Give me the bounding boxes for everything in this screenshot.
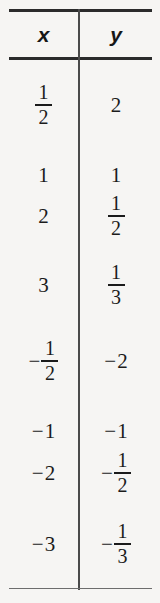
fraction: 13 [108,262,125,309]
cell-y: −1 [80,408,152,454]
cell-value-x: 1 [38,165,49,186]
cell-x: 3 [9,262,78,308]
cell-value-x: −1 [32,421,55,442]
fraction: 12 [114,450,131,497]
minus-sign: − [32,420,44,441]
fraction: 12 [35,82,52,129]
table-bottom-rule [9,588,152,589]
cell-x: −2 [9,450,78,496]
cell-value-x: 12 [35,82,52,129]
fraction-denominator: 2 [110,218,122,239]
math-table-figure: x y 12211212313−12−2−1−1−2−12−3−13 [0,0,160,603]
cell-y: 13 [80,262,152,308]
fraction: 13 [114,521,131,568]
minus-sign: − [32,462,44,483]
fraction-numerator: 1 [116,521,128,542]
fraction-numerator: 1 [116,450,128,471]
cell-y: 12 [80,193,152,239]
minus-sign: − [104,350,116,371]
table-row: 122 [0,82,160,128]
integer-value: 1 [45,421,56,442]
table-header-row: x y [0,12,160,57]
fraction-numerator: 1 [110,193,122,214]
table-body: 12211212313−12−2−1−1−2−12−3−13 [0,60,160,588]
cell-value-y: −1 [104,421,127,442]
fraction-denominator: 3 [116,546,128,567]
table-row: −1−1 [0,408,160,454]
cell-value-x: 3 [38,275,49,296]
cell-value-y: 13 [108,262,125,309]
fraction-denominator: 3 [110,287,122,308]
fraction: 12 [108,193,125,240]
cell-x: −1 [9,408,78,454]
table-row: −3−13 [0,521,160,567]
cell-y: −12 [80,450,152,496]
cell-value-x: −12 [29,338,59,385]
cell-x: 12 [9,82,78,128]
integer-value: 3 [38,275,49,296]
cell-value-y: 12 [108,193,125,240]
cell-value-x: 2 [38,206,49,227]
integer-value: 1 [111,165,122,186]
integer-value: 2 [38,206,49,227]
column-header-y: y [80,12,152,57]
fraction-numerator: 1 [110,262,122,283]
integer-value: 1 [38,165,49,186]
minus-sign: − [101,533,113,554]
cell-y: −13 [80,521,152,567]
integer-value: 2 [45,463,56,484]
cell-value-y: −13 [101,521,131,568]
cell-value-y: 1 [111,165,122,186]
cell-value-y: 2 [111,95,122,116]
cell-value-x: −2 [32,463,55,484]
fraction-denominator: 2 [44,363,56,384]
cell-value-y: −2 [104,351,127,372]
cell-y: −2 [80,338,152,384]
cell-y: 2 [80,82,152,128]
cell-value-y: −12 [101,450,131,497]
fraction-numerator: 1 [44,338,56,359]
fraction-denominator: 2 [116,475,128,496]
table-row: −2−12 [0,450,160,496]
minus-sign: − [101,462,113,483]
integer-value: 2 [111,95,122,116]
minus-sign: − [29,350,41,371]
minus-sign: − [32,533,44,554]
cell-x: −12 [9,338,78,384]
fraction-numerator: 1 [38,82,50,103]
table-row: 212 [0,193,160,239]
cell-value-x: −3 [32,534,55,555]
fraction: 12 [41,338,58,385]
table-row: 313 [0,262,160,308]
table-row: −12−2 [0,338,160,384]
fraction-denominator: 2 [38,107,50,128]
column-header-x: x [9,12,78,57]
minus-sign: − [104,420,116,441]
integer-value: 2 [117,351,128,372]
integer-value: 1 [117,421,128,442]
table-row: 11 [0,152,160,198]
cell-x: −3 [9,521,78,567]
integer-value: 3 [45,534,56,555]
cell-x: 2 [9,193,78,239]
cell-x: 1 [9,152,78,198]
